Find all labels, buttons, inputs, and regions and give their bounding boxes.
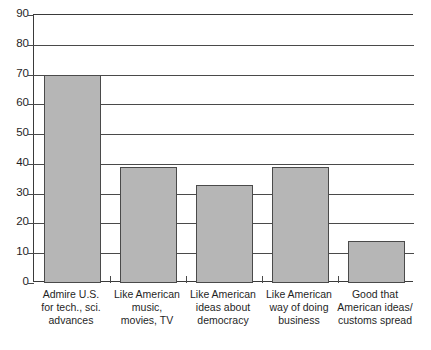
x-axis-label-line: customs spread	[328, 314, 422, 327]
x-axis-label-line: Good that	[328, 288, 422, 301]
x-axis-tick	[338, 276, 339, 283]
y-axis-tick-label: 0	[2, 276, 29, 288]
bar	[196, 185, 253, 283]
x-axis-label-line: American ideas/	[328, 301, 422, 314]
x-axis-category-label: Good thatAmerican ideas/customs spread	[328, 288, 422, 328]
plot-area	[33, 14, 413, 282]
x-axis-tick	[110, 276, 111, 283]
x-axis-labels: Admire U.S.for tech., sci.advancesLike A…	[33, 288, 413, 346]
bar	[348, 241, 405, 283]
y-axis-tick	[28, 283, 34, 284]
y-axis-tick-label: 50	[2, 127, 29, 139]
y-axis-tick-label: 30	[2, 187, 29, 199]
x-axis-tick	[186, 276, 187, 283]
y-axis-tick-label: 40	[2, 157, 29, 169]
bar-chart: 0102030405060708090 Admire U.S.for tech.…	[0, 0, 431, 350]
y-axis-tick-label: 90	[2, 8, 29, 20]
x-axis-tick	[262, 276, 263, 283]
bar	[120, 167, 177, 283]
y-axis-tick-label: 60	[2, 97, 29, 109]
y-axis-tick-label: 80	[2, 38, 29, 50]
bar	[44, 75, 101, 283]
y-axis-tick-label: 10	[2, 246, 29, 258]
bars-group	[34, 15, 414, 283]
y-axis-tick-label: 20	[2, 216, 29, 228]
y-axis-tick-label: 70	[2, 68, 29, 80]
bar	[272, 167, 329, 283]
